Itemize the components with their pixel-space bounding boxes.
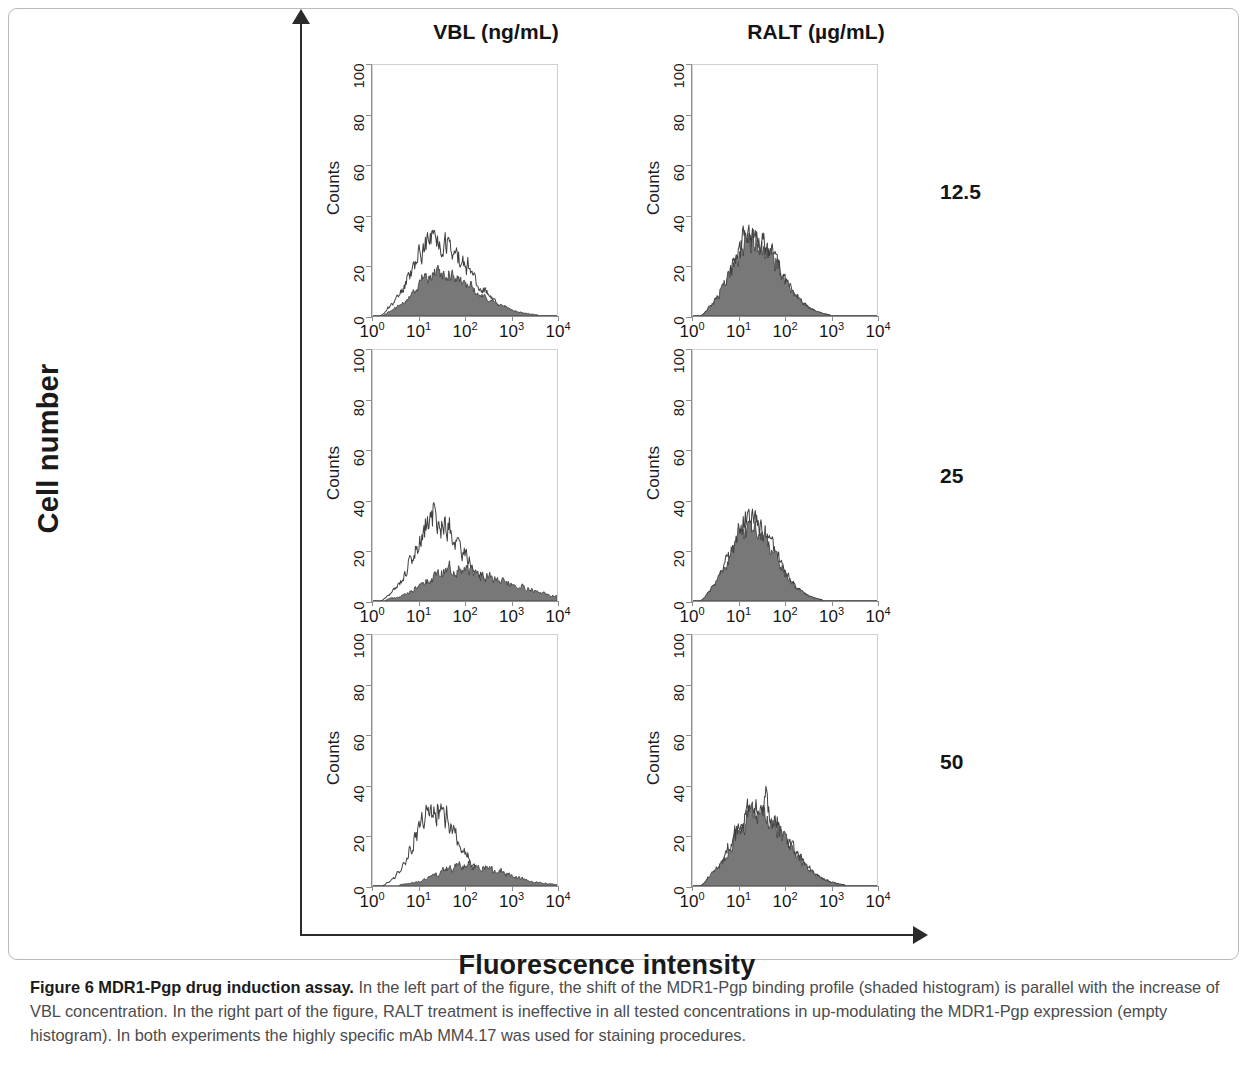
histogram-plot [693,635,877,886]
y-tick-label: 40 [350,785,367,825]
x-tick-label: 100 [349,607,395,627]
y-tick [366,836,372,837]
x-tick-label: 102 [442,322,488,342]
y-tick-label: 60 [670,165,687,205]
y-tick [686,266,692,267]
x-tick-label: 100 [669,607,715,627]
figure-page: Cell number Fluorescence intensity VBL (… [0,0,1248,1079]
x-tick [512,316,513,321]
x-tick [465,316,466,321]
y-tick [366,400,372,401]
y-tick-label: 40 [670,785,687,825]
y-tick [366,266,372,267]
y-tick-label: 100 [670,349,687,389]
row-label-12-5: 12.5 [940,180,1010,204]
figure-caption: Figure 6 MDR1-Pgp drug induction assay. … [30,975,1226,1047]
x-tick-label: 102 [762,322,808,342]
y-tick-label: 80 [670,399,687,439]
y-tick [366,165,372,166]
panel-y-axis [691,634,692,887]
x-tick-label: 101 [716,892,762,912]
y-tick [686,64,692,65]
row-label-50: 50 [940,750,1010,774]
x-tick [512,886,513,891]
x-tick-label: 103 [489,892,535,912]
histogram-plot [373,65,557,316]
x-tick [785,601,786,606]
y-tick-label: 80 [670,114,687,154]
x-tick-label: 100 [349,322,395,342]
y-tick [366,64,372,65]
x-tick [512,601,513,606]
x-tick [419,316,420,321]
histogram-plot [373,635,557,886]
y-tick [686,685,692,686]
y-tick-label: 100 [670,64,687,104]
y-tick [686,115,692,116]
shaded-histogram [693,229,877,316]
x-tick [878,316,879,321]
x-tick-label: 100 [669,892,715,912]
x-tick [832,886,833,891]
y-tick [686,165,692,166]
x-tick-label: 104 [855,607,901,627]
y-tick [366,216,372,217]
x-tick-label: 104 [535,892,581,912]
y-tick-label: 20 [670,836,687,876]
x-tick-label: 102 [442,892,488,912]
panel-ralt-12-5: 020406080100Counts100101102103104 [630,58,940,343]
y-tick [686,349,692,350]
panel-vbl-25: 020406080100Counts100101102103104 [310,343,620,628]
y-tick-label: 40 [350,500,367,540]
y-tick [686,450,692,451]
panel-y-axis-label: Counts [324,703,344,813]
histogram-plot [373,350,557,601]
x-tick [785,316,786,321]
x-tick [692,316,693,321]
y-tick [686,501,692,502]
x-tick-label: 103 [489,607,535,627]
x-tick-label: 102 [442,607,488,627]
x-tick [558,886,559,891]
x-tick-label: 103 [809,322,855,342]
column-header-vbl: VBL (ng/mL) [356,20,636,44]
y-tick-label: 60 [350,165,367,205]
y-tick [366,551,372,552]
x-tick [372,601,373,606]
x-tick-label: 101 [396,607,442,627]
y-tick-label: 100 [670,634,687,674]
x-tick-label: 104 [535,322,581,342]
x-tick-label: 104 [855,322,901,342]
y-tick-label: 20 [350,266,367,306]
x-tick-label: 103 [809,892,855,912]
panel-y-axis-label: Counts [324,418,344,528]
shaded-histogram [373,860,557,886]
panel-y-axis [691,349,692,602]
y-tick-label: 20 [670,266,687,306]
x-tick [372,886,373,891]
y-tick [366,634,372,635]
y-tick [686,786,692,787]
x-tick [832,601,833,606]
x-tick-label: 101 [396,322,442,342]
panel-vbl-50: 020406080100Counts100101102103104 [310,628,620,913]
plot-area [692,634,878,887]
panel-y-axis-label: Counts [644,418,664,528]
x-tick [739,601,740,606]
global-y-axis-label: Cell number [32,339,65,559]
x-tick-label: 102 [762,892,808,912]
global-x-axis [300,934,914,936]
y-tick-label: 100 [350,349,367,389]
plot-area [372,349,558,602]
y-tick-label: 100 [350,634,367,674]
x-tick-label: 102 [762,607,808,627]
y-tick [366,685,372,686]
y-tick [366,501,372,502]
y-axis-arrow-icon [292,9,310,24]
x-tick [558,601,559,606]
y-tick-label: 80 [350,684,367,724]
y-tick [686,634,692,635]
plot-area [692,349,878,602]
y-tick [366,115,372,116]
x-tick-label: 101 [716,322,762,342]
